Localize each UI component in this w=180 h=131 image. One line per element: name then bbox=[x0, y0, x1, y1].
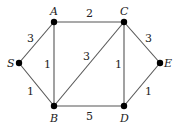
node-label-d: D bbox=[119, 112, 129, 125]
node-a bbox=[51, 19, 57, 25]
node-b bbox=[51, 103, 57, 109]
edge-weight-a-b: 1 bbox=[44, 58, 51, 71]
node-label-b: B bbox=[49, 112, 58, 125]
node-e bbox=[157, 60, 163, 66]
node-c bbox=[121, 19, 127, 25]
node-label-s: S bbox=[7, 57, 15, 70]
node-s bbox=[16, 60, 22, 66]
node-label-a: A bbox=[49, 5, 58, 18]
edge-d-e bbox=[124, 63, 160, 106]
edge-weight-b-d: 5 bbox=[86, 110, 93, 123]
edge-s-a bbox=[19, 22, 54, 63]
edge-weight-a-c: 2 bbox=[86, 7, 93, 20]
node-d bbox=[121, 103, 127, 109]
edge-weight-c-d: 1 bbox=[115, 58, 122, 71]
node-labels-layer: SABCDE bbox=[7, 5, 172, 125]
edge-b-c bbox=[54, 22, 124, 106]
edge-weight-d-e: 1 bbox=[145, 85, 152, 98]
edge-weight-s-b: 1 bbox=[27, 85, 34, 98]
edge-weight-b-c: 3 bbox=[83, 50, 90, 63]
edges-layer bbox=[19, 22, 160, 106]
edge-weight-s-a: 3 bbox=[27, 32, 34, 45]
node-label-e: E bbox=[163, 57, 172, 70]
edge-c-e bbox=[124, 22, 160, 63]
edge-weight-c-e: 3 bbox=[145, 32, 152, 45]
node-label-c: C bbox=[120, 5, 129, 18]
weighted-graph-diagram: 312131531 SABCDE bbox=[0, 0, 180, 131]
